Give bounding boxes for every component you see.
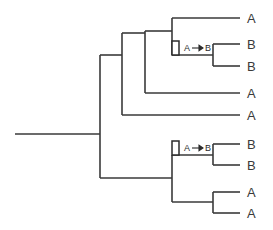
tip-label: B [247,59,256,74]
event-lower-from-label: A [184,143,190,153]
tip-label: B [247,37,256,52]
tip-label: B [247,158,256,173]
state-change-marker-icon [172,141,179,155]
tip-label: A [247,108,256,123]
tip-label: A [247,185,256,200]
event-marker-lower-group: A B [172,141,211,155]
event-marker-upper-group: A B [172,41,211,55]
event-upper-from-label: A [184,43,190,53]
tip-label: A [247,86,256,101]
state-change-marker-icon [172,41,179,55]
event-upper-to-label: B [205,43,211,53]
tree-canvas: A B A B A B B A A B B A A [0,0,273,230]
event-upper-arrow-icon [192,45,203,51]
phylogenetic-tree-figure: A B A B A B B A A B B A A [0,0,273,230]
event-lower-to-label: B [205,143,211,153]
event-lower-arrow-icon [192,145,203,151]
tip-label: B [247,137,256,152]
tip-label: A [247,11,256,26]
tip-label: A [247,206,256,221]
